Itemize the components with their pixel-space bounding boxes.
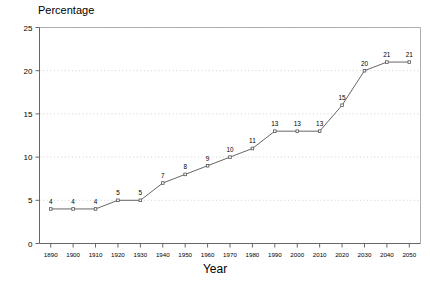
data-point-marker: [274, 130, 277, 133]
data-point-marker: [117, 199, 120, 202]
x-tick-label-2000: 2000: [290, 251, 304, 258]
data-point-label: 20: [361, 60, 369, 67]
x-tick-label-1920: 1920: [111, 251, 125, 258]
data-point-marker: [408, 61, 411, 64]
x-tick-label-1950: 1950: [178, 251, 192, 258]
data-point-label: 10: [226, 146, 234, 153]
x-tick-label-1970: 1970: [223, 251, 237, 258]
data-point-label: 21: [406, 51, 414, 58]
data-point-marker: [386, 61, 389, 64]
data-point-marker: [184, 173, 187, 176]
data-point-marker: [341, 104, 344, 107]
x-tick-label-1940: 1940: [156, 251, 170, 258]
y-tick-label-25: 25: [24, 24, 33, 33]
data-point-marker: [229, 156, 232, 159]
data-point-marker: [161, 182, 164, 185]
x-tick-label-1890: 1890: [44, 251, 58, 258]
x-tick-label-1930: 1930: [133, 251, 147, 258]
x-tick-label-1960: 1960: [201, 251, 215, 258]
x-tick-label-1910: 1910: [89, 251, 103, 258]
x-tick-label-2040: 2040: [380, 251, 394, 258]
data-point-label: 13: [316, 120, 324, 127]
data-point-marker: [49, 208, 52, 211]
x-tick-label-1980: 1980: [246, 251, 260, 258]
data-point-label: 5: [139, 189, 143, 196]
data-point-marker: [296, 130, 299, 133]
x-tick-label-1900: 1900: [66, 251, 80, 258]
x-tick-label-2010: 2010: [313, 251, 327, 258]
x-tick-label-2020: 2020: [335, 251, 349, 258]
data-point-marker: [363, 69, 366, 72]
y-tick-label-5: 5: [28, 196, 33, 205]
series-line-percentage: [51, 62, 410, 209]
y-tick-label-0: 0: [28, 240, 33, 249]
data-point-label: 9: [206, 155, 210, 162]
x-axis-label: Year: [0, 262, 430, 276]
x-tick-label-2050: 2050: [402, 251, 416, 258]
data-point-label: 5: [116, 189, 120, 196]
y-tick-label-10: 10: [24, 153, 33, 162]
x-axis-ticks-group: 1890190019101920193019401950196019701980…: [44, 244, 417, 258]
data-point-marker: [139, 199, 142, 202]
data-point-marker: [72, 208, 75, 211]
data-point-marker: [94, 208, 97, 211]
data-point-label: 8: [183, 163, 187, 170]
data-point-marker: [251, 147, 254, 150]
y-axis-ticks-group: 0510152025: [24, 24, 40, 249]
data-point-label: 11: [249, 137, 256, 144]
chart-figure: Percentage 0510152025 189019001910192019…: [0, 0, 430, 286]
x-tick-label-1990: 1990: [268, 251, 282, 258]
data-point-label: 15: [339, 94, 347, 101]
data-point-marker: [206, 164, 209, 167]
y-tick-label-15: 15: [24, 110, 33, 119]
data-point-label: 4: [71, 198, 75, 205]
plot-area: 0510152025 18901900191019201930194019501…: [0, 0, 430, 286]
data-point-label: 4: [94, 198, 98, 205]
data-point-marker: [318, 130, 321, 133]
data-line-group: [51, 62, 410, 209]
data-point-label: 7: [161, 172, 165, 179]
x-tick-label-2030: 2030: [358, 251, 372, 258]
data-point-label: 21: [383, 51, 391, 58]
data-point-label: 4: [49, 198, 53, 205]
data-point-label: 13: [271, 120, 279, 127]
y-tick-label-20: 20: [24, 67, 33, 76]
gridlines-group: [40, 28, 421, 201]
data-point-label: 13: [294, 120, 302, 127]
data-point-labels-group: 44455789101113131315202121: [49, 51, 413, 205]
